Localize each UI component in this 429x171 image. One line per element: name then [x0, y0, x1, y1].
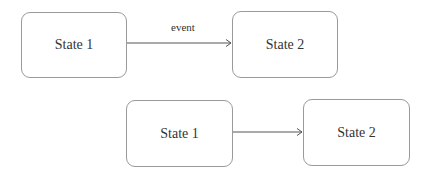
bottom-state-1[interactable]: State 1 — [126, 100, 233, 167]
top-state-1[interactable]: State 1 — [21, 12, 127, 78]
state-label: State 2 — [266, 37, 305, 53]
top-transition-arrow — [126, 40, 231, 47]
transition-label-event: event — [171, 21, 195, 33]
bottom-transition-arrow — [232, 129, 302, 136]
bottom-state-2[interactable]: State 2 — [303, 99, 410, 166]
state-label: State 1 — [160, 126, 199, 142]
state-label: State 1 — [55, 37, 94, 53]
top-state-2[interactable]: State 2 — [232, 11, 338, 78]
state-label: State 2 — [337, 125, 376, 141]
